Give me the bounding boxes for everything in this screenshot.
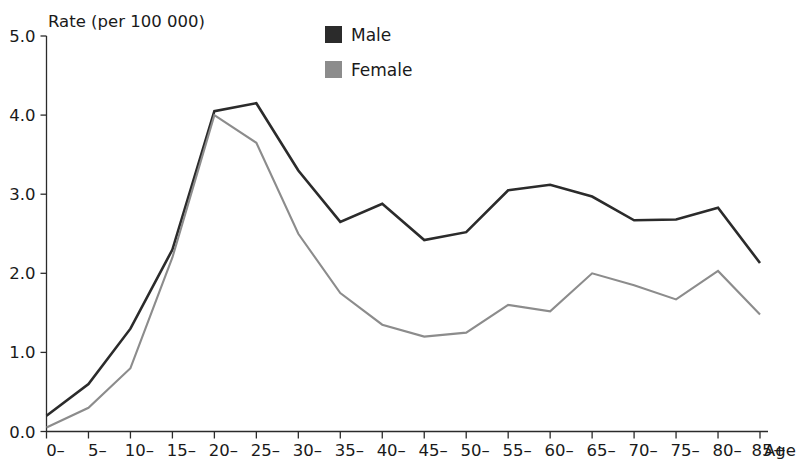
x-axis-title: Age xyxy=(764,441,796,460)
y-axis-ticks: 0.01.02.03.04.05.0 xyxy=(9,27,46,442)
legend-swatch-female xyxy=(325,61,342,78)
x-tick-label: 30– xyxy=(293,441,322,460)
legend-swatch-male xyxy=(325,26,342,43)
x-tick-label: 55– xyxy=(503,441,532,460)
x-tick-label: 15– xyxy=(167,441,196,460)
y-tick-label: 1.0 xyxy=(9,343,35,362)
x-tick-label: 45– xyxy=(419,441,448,460)
legend-label-male: Male xyxy=(351,25,391,45)
x-tick-label: 60– xyxy=(545,441,574,460)
x-tick-label: 5– xyxy=(88,441,107,460)
chart-legend: MaleFemale xyxy=(325,25,412,80)
x-tick-label: 70– xyxy=(628,441,657,460)
x-tick-label: 65– xyxy=(586,441,615,460)
y-axis-title: Rate (per 100 000) xyxy=(48,12,205,31)
x-axis-ticks: 0–5–10–15–20–25–30–35–40–45–50–55–60–65–… xyxy=(46,432,786,460)
series-line-female xyxy=(47,115,761,427)
x-tick-label: 25– xyxy=(251,441,280,460)
chart-canvas: Rate (per 100 000) 0.01.02.03.04.05.0 0–… xyxy=(0,0,796,462)
x-tick-label: 20– xyxy=(209,441,238,460)
line-chart: Rate (per 100 000) 0.01.02.03.04.05.0 0–… xyxy=(0,0,796,462)
x-tick-label: 10– xyxy=(125,441,154,460)
x-tick-label: 35– xyxy=(335,441,364,460)
y-tick-label: 0.0 xyxy=(9,423,35,442)
legend-label-female: Female xyxy=(351,60,412,80)
x-tick-label: 40– xyxy=(377,441,406,460)
y-tick-label: 5.0 xyxy=(9,27,35,46)
x-tick-label: 80– xyxy=(712,441,741,460)
series-line-male xyxy=(47,103,761,415)
y-tick-label: 2.0 xyxy=(9,264,35,283)
series-group xyxy=(47,103,761,427)
x-tick-label: 0– xyxy=(46,441,65,460)
y-tick-label: 3.0 xyxy=(9,185,35,204)
y-tick-label: 4.0 xyxy=(9,106,35,125)
x-tick-label: 50– xyxy=(461,441,490,460)
x-tick-label: 75– xyxy=(670,441,699,460)
